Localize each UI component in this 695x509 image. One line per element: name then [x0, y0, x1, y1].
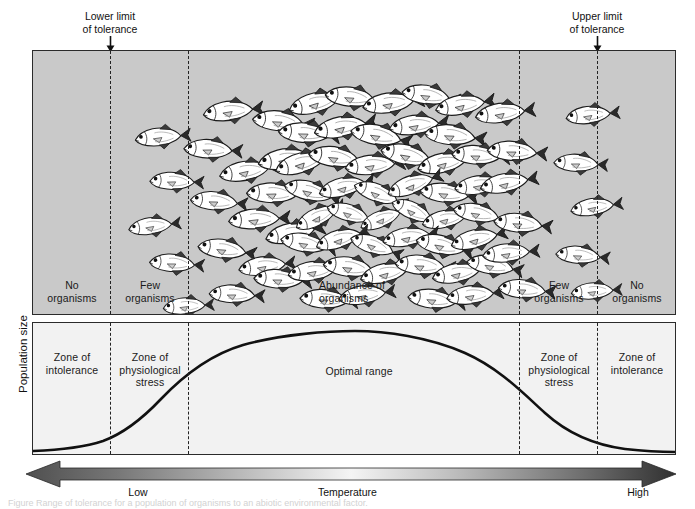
graph-divider-lower-limit: [110, 323, 111, 454]
graph-zone-label-intolerance-right: Zone of intolerance: [602, 351, 672, 376]
graph-divider-lower-stress: [188, 323, 189, 454]
temperature-gradient-arrow: [26, 460, 676, 488]
zone-label-abundance-of-organisms: Abundance of organisms: [319, 279, 391, 304]
population-size-graph-panel: Zone of intolerance Zone of physiologica…: [32, 322, 676, 455]
graph-divider-upper-stress: [519, 323, 520, 454]
graph-zone-label-optimal-range: Optimal range: [313, 365, 405, 378]
x-axis-high-label: High: [608, 486, 668, 498]
lower-limit-of-tolerance-label: Lower limit of tolerance: [50, 10, 170, 35]
organism-abundance-panel: No organisms Few organisms Abundance of …: [32, 50, 676, 315]
zone-label-no-organisms-right: No organisms: [602, 279, 672, 304]
fish-school-illustration: [33, 51, 675, 314]
x-axis-label: Temperature: [0, 486, 695, 498]
figure-caption: Figure Range of tolerance for a populati…: [8, 498, 528, 509]
graph-zone-label-stress-left: Zone of physiological stress: [115, 351, 185, 389]
y-axis-label: Population size: [17, 299, 29, 409]
zone-label-few-organisms-right: Few organisms: [524, 279, 594, 304]
graph-divider-upper-limit: [597, 323, 598, 454]
graph-zone-label-stress-right: Zone of physiological stress: [524, 351, 594, 389]
divider-upper-stress: [519, 51, 520, 314]
divider-lower-limit: [110, 51, 111, 314]
zone-label-no-organisms-left: No organisms: [37, 279, 107, 304]
divider-lower-stress: [188, 51, 189, 314]
figure-root: Lower limit of tolerance Upper limit of …: [0, 0, 695, 509]
upper-limit-of-tolerance-label: Upper limit of tolerance: [537, 10, 657, 35]
graph-zone-label-intolerance-left: Zone of intolerance: [37, 351, 107, 376]
zone-label-few-organisms-left: Few organisms: [115, 279, 185, 304]
divider-upper-limit: [597, 51, 598, 314]
population-curve: [33, 323, 675, 454]
